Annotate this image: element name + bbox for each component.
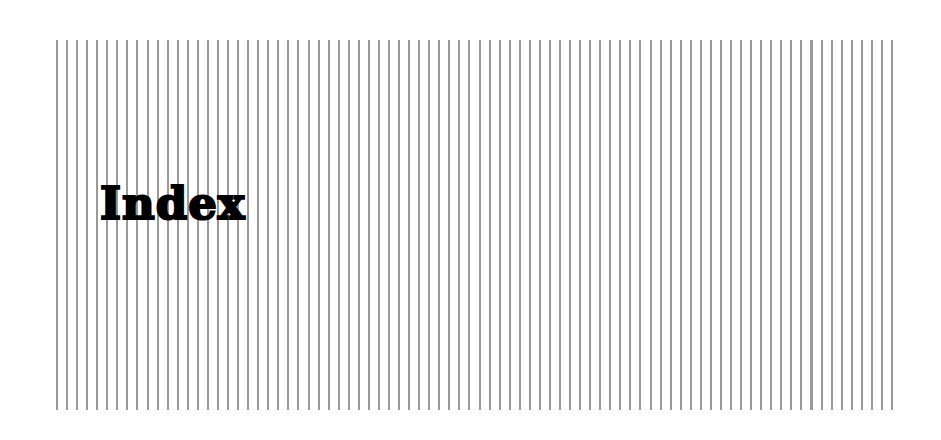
page-title: Index — [100, 176, 246, 232]
